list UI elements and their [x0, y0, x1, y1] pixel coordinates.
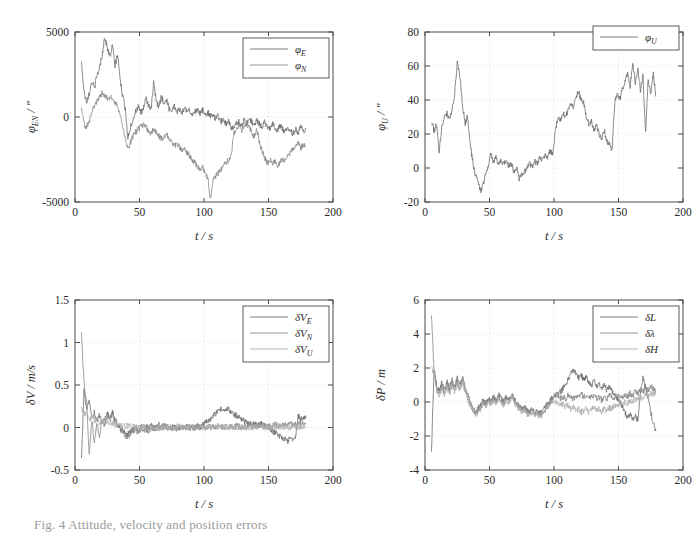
x-axis-title: t / s	[195, 497, 213, 511]
y-tick-label: 80	[408, 26, 420, 38]
y-axis-title: δP / m	[374, 369, 388, 401]
y-tick-label: -2	[409, 430, 419, 442]
y-tick-label: 20	[408, 128, 420, 140]
svg-text:φU / ″: φU / ″	[374, 102, 390, 130]
legend-label: δL	[645, 311, 656, 323]
x-tick-label: 0	[72, 474, 78, 486]
y-tick-label: 0.5	[55, 379, 70, 391]
x-axis-title: t / s	[195, 229, 213, 243]
svg-text:φEN / ″: φEN / ″	[24, 100, 40, 133]
x-tick-label: 50	[484, 474, 496, 486]
y-axis-title: δV / m/s	[24, 365, 38, 405]
x-tick-label: 200	[324, 474, 342, 486]
y-tick-label: 0	[413, 396, 419, 408]
subplot-phi-en: 050100150200-500005000t / sφEN / ″φEφN	[0, 0, 350, 262]
x-tick-label: 200	[674, 474, 692, 486]
x-tick-label: 100	[545, 474, 563, 486]
y-tick-label: -0.5	[51, 464, 69, 476]
x-tick-label: 150	[610, 474, 628, 486]
y-tick-label: 2	[413, 362, 419, 374]
y-tick-label: 0	[63, 111, 69, 123]
series-line	[431, 61, 655, 193]
x-tick-label: 150	[260, 206, 278, 218]
y-tick-label: 4	[413, 328, 419, 340]
y-tick-label: 1.5	[55, 294, 70, 306]
x-tick-label: 100	[545, 206, 563, 218]
series-line	[81, 91, 305, 199]
x-tick-label: 100	[195, 474, 213, 486]
y-tick-label: -5000	[42, 196, 69, 208]
legend: δLδλδH	[593, 306, 679, 362]
y-tick-label: 0	[413, 162, 419, 174]
x-tick-label: 50	[134, 206, 146, 218]
y-tick-label: 0	[63, 422, 69, 434]
legend: φEφN	[243, 38, 329, 78]
y-tick-label: 40	[408, 94, 420, 106]
legend: φU	[593, 26, 679, 50]
x-tick-label: 150	[260, 474, 278, 486]
figure-container: 050100150200-500005000t / sφEN / ″φEφN 0…	[0, 0, 700, 543]
y-tick-label: 60	[408, 60, 420, 72]
subplot-phi-u: 050100150200-20020406080t / sφU / ″φU	[350, 0, 700, 262]
svg-text:δP / m: δP / m	[374, 369, 388, 401]
x-tick-label: 0	[72, 206, 78, 218]
subplot-delta-p: 050100150200-4-20246t / sδP / mδLδλδH	[350, 268, 700, 530]
y-axis-title: φEN / ″	[24, 100, 40, 133]
legend-label: δλ	[645, 327, 655, 339]
series-line	[431, 366, 655, 418]
legend: δVEδVNδVU	[243, 306, 329, 362]
y-tick-label: 6	[413, 294, 419, 306]
x-tick-label: 200	[324, 206, 342, 218]
series-line	[81, 389, 305, 458]
y-tick-label: 5000	[46, 26, 69, 38]
y-tick-label: 1	[63, 337, 69, 349]
subplot-delta-v: 050100150200-0.500.511.5t / sδV / m/sδVE…	[0, 268, 350, 530]
svg-text:δV / m/s: δV / m/s	[24, 365, 38, 405]
y-tick-label: -20	[404, 196, 420, 208]
legend-label: δH	[645, 343, 659, 355]
x-tick-label: 0	[422, 474, 428, 486]
series-line	[431, 369, 655, 451]
x-axis-title: t / s	[545, 229, 563, 243]
x-tick-label: 50	[134, 474, 146, 486]
y-axis-title: φU / ″	[374, 102, 390, 130]
x-axis-title: t / s	[545, 497, 563, 511]
x-tick-label: 150	[610, 206, 628, 218]
x-tick-label: 100	[195, 206, 213, 218]
x-tick-label: 0	[422, 206, 428, 218]
x-tick-label: 50	[484, 206, 496, 218]
x-tick-label: 200	[674, 206, 692, 218]
y-tick-label: -4	[409, 464, 419, 476]
figure-caption: Fig. 4 Attitude, velocity and position e…	[34, 517, 674, 543]
